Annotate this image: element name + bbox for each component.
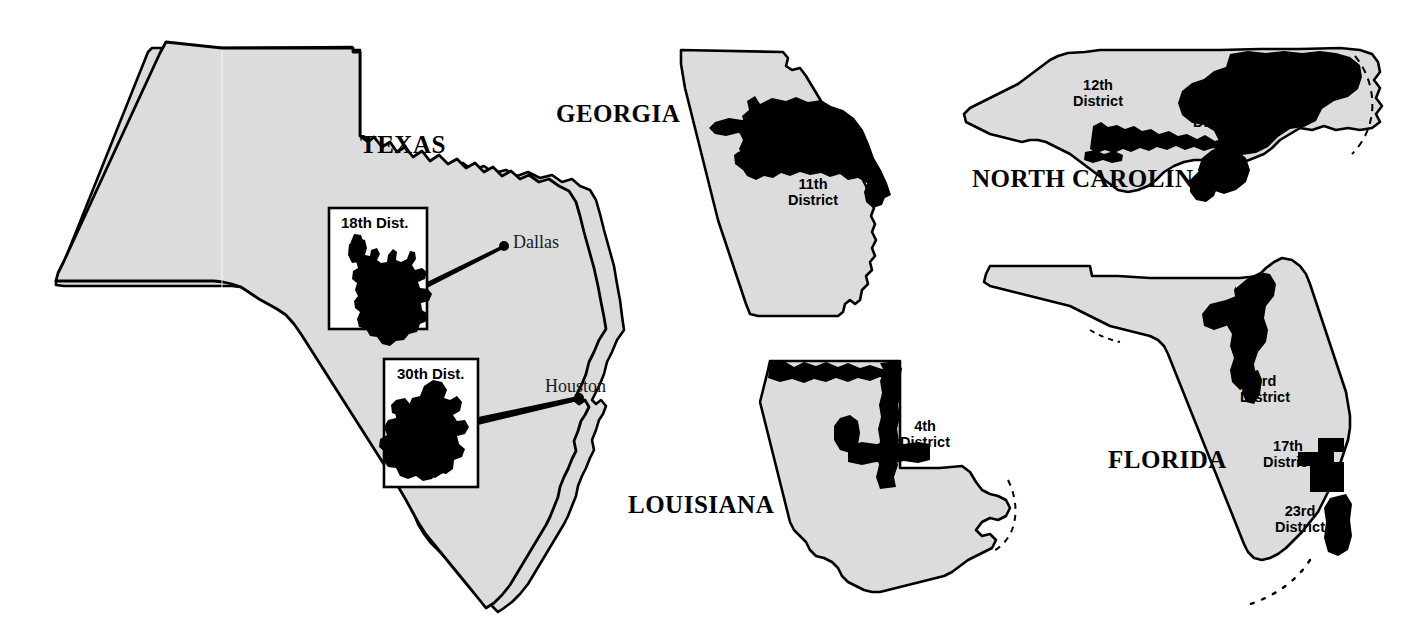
district-label-la-4-line1: 4th (887, 418, 963, 434)
district-label-ga-11: 11th District (778, 176, 848, 208)
dallas-dot (499, 241, 509, 251)
district-label-fl-17-line2: District (1250, 454, 1326, 470)
city-label-dallas: Dallas (513, 233, 559, 251)
district-label-fl-23-line1: 23rd (1262, 503, 1338, 519)
district-label-nc-1-line2: District (1180, 114, 1256, 130)
district-label-fl-17: 17th District (1250, 438, 1326, 470)
congressional-districts-figure: TEXAS GEORGIA NORTH CAROLINA LOUISIANA F… (0, 0, 1419, 644)
district-label-fl-3: 3rd District (1227, 373, 1303, 405)
state-label-north-carolina: NORTH CAROLINA (972, 166, 1212, 191)
florida-map (984, 258, 1352, 606)
district-label-la-4: 4th District (887, 418, 963, 450)
louisiana-map (760, 361, 1015, 592)
state-label-louisiana: LOUISIANA (628, 492, 774, 517)
district-label-nc-12-line1: 12th (1060, 77, 1136, 93)
district-label-fl-17-line1: 17th (1250, 438, 1326, 454)
district-label-fl-3-line2: District (1227, 389, 1303, 405)
texas-map (56, 42, 625, 613)
city-label-houston: Houston (545, 377, 606, 395)
district-label-la-4-line2: District (887, 434, 963, 450)
district-label-fl-3-line1: 3rd (1227, 373, 1303, 389)
district-label-ga-11-line2: District (778, 192, 848, 208)
district-label-nc-12-line2: District (1060, 93, 1136, 109)
maps-svg (0, 0, 1419, 644)
inset-title-tx-30: 30th Dist. (397, 366, 465, 381)
state-label-georgia: GEORGIA (556, 101, 680, 126)
district-label-nc-1-line1: 1st (1180, 98, 1256, 114)
state-label-texas: TEXAS (360, 132, 446, 157)
state-label-florida: FLORIDA (1108, 447, 1227, 472)
district-label-fl-23-line2: District (1262, 519, 1338, 535)
inset-title-tx-18: 18th Dist. (341, 215, 409, 230)
florida-panhandle-dash (1090, 330, 1120, 342)
district-label-ga-11-line1: 11th (778, 176, 848, 192)
district-label-nc-12: 12th District (1060, 77, 1136, 109)
district-label-fl-23: 23rd District (1262, 503, 1338, 535)
florida-keys-dashes (1244, 560, 1310, 606)
district-label-nc-1: 1st District (1180, 98, 1256, 130)
